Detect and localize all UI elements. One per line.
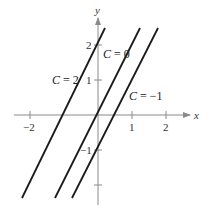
- x-tick-label: 1: [129, 121, 135, 133]
- x-tick-label: −2: [23, 121, 35, 133]
- x-axis-label: x: [193, 109, 199, 121]
- chart-canvas: x y −2 1 2 2 1 −1 C = 2 C = 0 C = −1: [0, 0, 210, 210]
- label-c-2: C = 2: [52, 73, 79, 87]
- y-tick-label: 1: [86, 74, 92, 86]
- y-tick-label: 2: [86, 39, 92, 51]
- y-axis-label: y: [94, 4, 100, 16]
- line-c-2: [22, 28, 105, 198]
- label-c-neg1: C = −1: [129, 89, 163, 103]
- x-tick-label: 2: [163, 121, 169, 133]
- label-c-0: C = 0: [103, 47, 130, 61]
